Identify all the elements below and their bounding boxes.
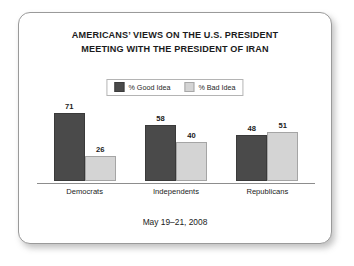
bar-democrats-bad <box>85 156 116 181</box>
chart-title-line-1: AMERICANS’ VIEWS ON THE U.S. PRESIDENT <box>19 29 331 43</box>
plot-area: 71 26 58 40 <box>39 101 313 181</box>
legend-swatch-dark-icon <box>114 82 124 92</box>
bar-independents-bad <box>176 142 207 181</box>
bar-value-democrats-good: 71 <box>54 102 85 111</box>
chart-footer-date: May 19–21, 2008 <box>19 217 331 227</box>
x-axis-baseline <box>37 183 315 184</box>
bar-independents-good <box>145 125 176 181</box>
bar-wrap-democrats-good: 71 <box>54 101 85 181</box>
bar-wrap-republicans-bad: 51 <box>267 101 298 181</box>
chart-title: AMERICANS’ VIEWS ON THE U.S. PRESIDENT M… <box>19 29 331 56</box>
bar-wrap-republicans-good: 48 <box>236 101 267 181</box>
category-label-democrats: Democrats <box>54 187 116 196</box>
legend-item-good-idea: % Good Idea <box>114 82 170 92</box>
category-label-republicans: Republicans <box>236 187 298 196</box>
bar-group-independents: 58 40 <box>145 101 207 181</box>
bar-value-democrats-bad: 26 <box>85 145 116 154</box>
bar-group-democrats: 71 26 <box>54 101 116 181</box>
bar-democrats-good <box>54 113 85 181</box>
category-labels: Democrats Independents Republicans <box>39 187 313 196</box>
screenshot-root: AMERICANS’ VIEWS ON THE U.S. PRESIDENT M… <box>0 0 354 266</box>
bar-groups: 71 26 58 40 <box>39 101 313 181</box>
legend-label-good-idea: % Good Idea <box>128 83 170 92</box>
legend-swatch-light-icon <box>184 82 194 92</box>
bar-wrap-independents-bad: 40 <box>176 101 207 181</box>
bar-wrap-independents-good: 58 <box>145 101 176 181</box>
legend-label-bad-idea: % Bad Idea <box>198 83 235 92</box>
bar-value-independents-good: 58 <box>145 114 176 123</box>
legend-item-bad-idea: % Bad Idea <box>184 82 235 92</box>
bar-value-republicans-good: 48 <box>236 124 267 133</box>
bar-value-independents-bad: 40 <box>176 131 207 140</box>
category-label-independents: Independents <box>145 187 207 196</box>
chart-legend: % Good Idea % Bad Idea <box>106 79 243 96</box>
chart-title-line-2: MEETING WITH THE PRESIDENT OF IRAN <box>19 43 331 57</box>
bar-republicans-bad <box>267 132 298 181</box>
bar-wrap-democrats-bad: 26 <box>85 101 116 181</box>
bar-republicans-good <box>236 135 267 181</box>
bar-value-republicans-bad: 51 <box>267 121 298 130</box>
chart-card: AMERICANS’ VIEWS ON THE U.S. PRESIDENT M… <box>18 12 332 244</box>
bar-group-republicans: 48 51 <box>236 101 298 181</box>
